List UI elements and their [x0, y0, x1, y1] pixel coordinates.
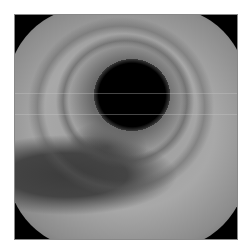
scan-line-artifact: [15, 114, 237, 115]
scan-line-artifact: [15, 93, 237, 94]
endoscopy-image-frame: [14, 14, 238, 240]
endoscopic-view: [14, 14, 238, 240]
